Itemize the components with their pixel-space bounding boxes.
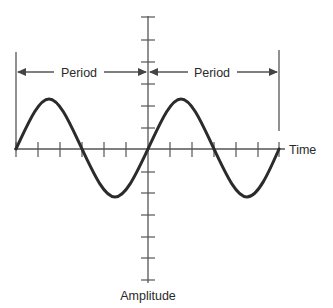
sine-wave-diagram: Period Period Time Amplitude (0, 0, 333, 308)
period-label-right: Period (194, 66, 230, 80)
period-label-left: Period (61, 66, 97, 80)
amplitude-axis-label: Amplitude (120, 289, 176, 303)
time-axis-label: Time (289, 143, 316, 157)
